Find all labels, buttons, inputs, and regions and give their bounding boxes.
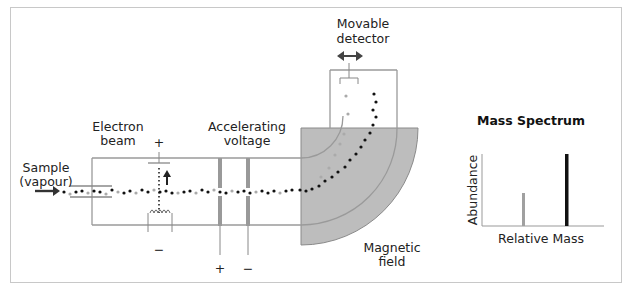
magnetic-field-label-2: field <box>379 254 406 269</box>
electron-beam-label: Electron <box>92 119 143 134</box>
movable-detector-label-2: detector <box>337 31 391 46</box>
electron-beam-label-2: beam <box>100 133 135 148</box>
double-arrow-icon <box>337 51 363 61</box>
accel-plus-sign: + <box>215 261 225 276</box>
y-axis-label: Abundance <box>465 154 480 225</box>
x-axis-label: Relative Mass <box>498 231 584 246</box>
detector-bracket <box>340 63 358 84</box>
bar-heavy-ion <box>565 154 569 226</box>
accelerating-plates <box>218 158 250 255</box>
sample-label: Sample <box>23 160 70 175</box>
mass-spectrometer-diagram: Sample (vapour) Electron beam + − Accele… <box>0 0 632 293</box>
magnetic-field-label: Magnetic <box>363 240 420 255</box>
up-arrow-icon <box>163 170 171 185</box>
bar-light-ion <box>522 193 525 226</box>
accelerating-voltage-label: Accelerating <box>208 119 286 134</box>
sample-label-2: (vapour) <box>19 174 72 189</box>
accelerating-voltage-label-2: voltage <box>224 133 271 148</box>
electron-plus-sign: + <box>154 135 164 150</box>
accel-minus-sign: − <box>243 261 253 276</box>
mass-spectrum-chart: Mass Spectrum Relative Mass Abundance <box>465 113 604 246</box>
chart-title: Mass Spectrum <box>477 113 585 128</box>
movable-detector-label: Movable <box>337 16 390 31</box>
electron-minus-sign: − <box>154 242 164 257</box>
